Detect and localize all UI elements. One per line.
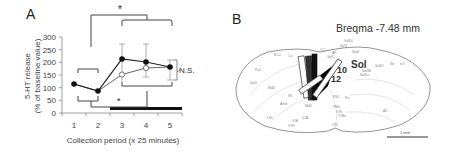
svg-text:2: 2 — [96, 121, 101, 130]
svg-text:Cu: Cu — [288, 54, 293, 58]
svg-text:MdV: MdV — [305, 104, 313, 108]
svg-text:ecl: ecl — [400, 62, 405, 66]
bracket-bottom-left — [78, 96, 98, 101]
marker-filled — [71, 81, 77, 87]
panel-b-label: B — [232, 11, 241, 27]
svg-text:0: 0 — [52, 109, 57, 118]
sig-star-bottom: * — [117, 96, 121, 106]
ns-label: N.S. — [179, 66, 195, 75]
scale-bar-label: 1 mm — [400, 130, 411, 135]
svg-text:5: 5 — [168, 121, 173, 130]
svg-text:50: 50 — [47, 96, 56, 105]
svg-text:Amb: Amb — [280, 102, 287, 106]
svg-text:IRt: IRt — [288, 94, 293, 98]
svg-text:SolC: SolC — [327, 55, 335, 59]
svg-text:RVL: RVL — [333, 95, 340, 99]
svg-text:Sol3: Sol3 — [340, 44, 347, 48]
marker-filled — [143, 59, 149, 65]
x-ticks — [62, 113, 182, 116]
bracket-top-right — [122, 20, 172, 26]
svg-text:PMn: PMn — [333, 105, 340, 109]
sig-star-top: * — [118, 4, 122, 15]
y-ticks — [59, 37, 62, 113]
svg-text:SolDL: SolDL — [344, 39, 354, 43]
svg-text:5-HT release: 5-HT release — [23, 52, 32, 99]
panel-b-title: Breqma -7.48 mm — [336, 22, 420, 34]
svg-text:Sp5I: Sp5I — [250, 81, 257, 85]
svg-text:LRt: LRt — [267, 116, 272, 120]
svg-text:SolV: SolV — [352, 50, 360, 54]
svg-text:4: 4 — [144, 121, 149, 130]
svg-text:Pa5: Pa5 — [255, 68, 261, 72]
svg-text:(% of baseline value): (% of baseline value) — [33, 38, 42, 113]
marker-open — [143, 65, 148, 70]
svg-text:CC: CC — [320, 48, 326, 52]
x-axis-label: Collection period (x 25 minutes) — [67, 136, 180, 145]
panel-a-chart: * * N.S. 300 250 200 150 100 50 0 1 2 3 — [0, 0, 449, 155]
svg-text:IOD: IOD — [332, 123, 339, 127]
svg-text:300: 300 — [43, 33, 57, 42]
svg-text:SolVL: SolVL — [375, 64, 384, 68]
svg-text:IOPr: IOPr — [288, 124, 296, 128]
svg-text:IOBe: IOBe — [338, 114, 346, 118]
y-axis-label: 5-HT release (% of baseline value) — [23, 38, 42, 113]
brainstem-outline — [236, 47, 430, 133]
x-tick-labels: 1 2 3 4 5 — [72, 121, 173, 130]
marker-filled — [167, 64, 173, 70]
marker-open — [119, 72, 124, 77]
svg-text:3: 3 — [120, 121, 125, 130]
svg-text:A1: A1 — [383, 109, 387, 113]
svg-text:ECu: ECu — [274, 53, 281, 57]
svg-text:150: 150 — [43, 71, 57, 80]
svg-text:IOA: IOA — [302, 116, 309, 120]
svg-text:250: 250 — [43, 46, 57, 55]
svg-text:1: 1 — [72, 121, 77, 130]
svg-text:200: 200 — [43, 58, 57, 67]
svg-text:SolDe: SolDe — [360, 73, 370, 77]
svg-text:Ru: Ru — [345, 96, 350, 100]
y-tick-labels: 300 250 200 150 100 50 0 — [43, 33, 57, 118]
svg-text:MdD: MdD — [268, 86, 276, 90]
label-12: 12 — [331, 74, 341, 84]
svg-text:IOB: IOB — [292, 119, 299, 123]
marker-filled — [95, 88, 101, 94]
bracket-bottom-right — [122, 82, 172, 86]
svg-text:100: 100 — [43, 84, 57, 93]
marker-filled — [119, 56, 125, 62]
bracket-mid-left — [78, 69, 98, 73]
svg-text:Ne: Ne — [390, 62, 395, 66]
